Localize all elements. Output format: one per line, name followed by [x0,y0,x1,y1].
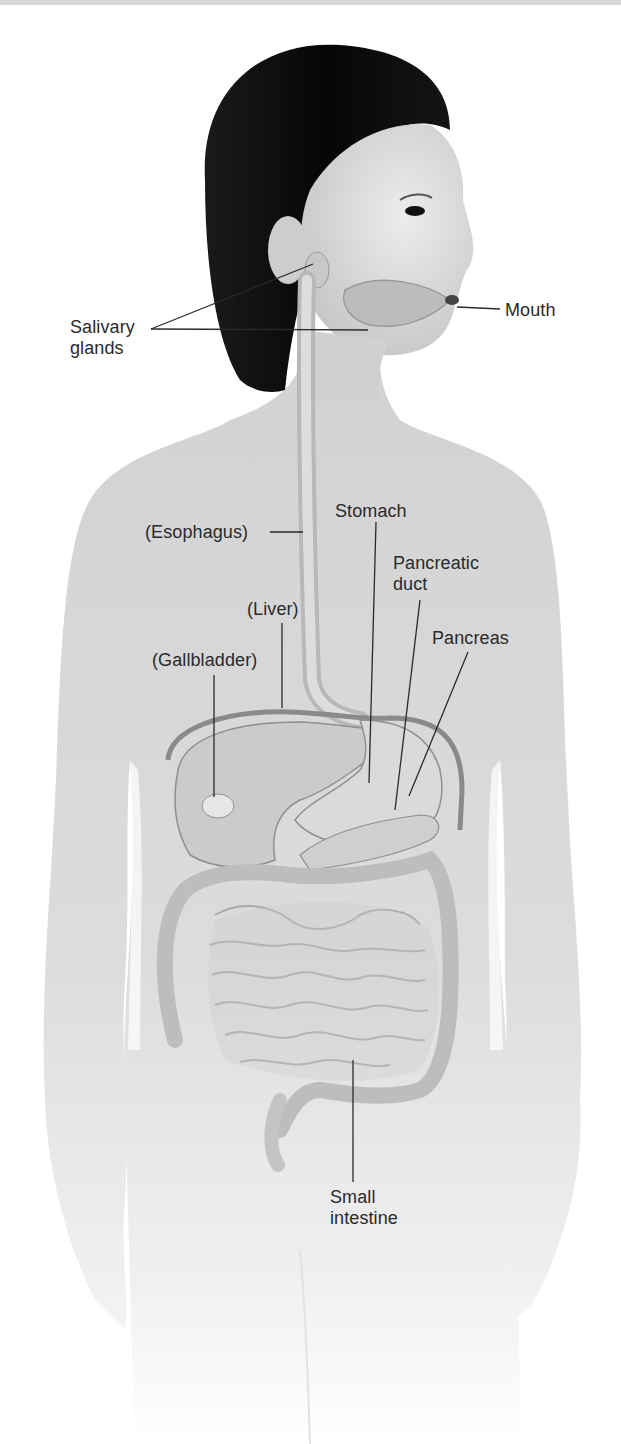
label-gallbladder: (Gallbladder) [152,650,257,671]
digestive-system-illustration [0,0,621,1444]
leader-mouth [457,307,500,309]
label-pancreatic-duct: Pancreatic duct [393,553,479,595]
label-liver: (Liver) [247,599,299,620]
label-pancreas: Pancreas [432,628,509,649]
gallbladder [202,794,234,818]
label-stomach: Stomach [335,501,407,522]
label-salivary-glands: Salivary glands [70,317,135,359]
label-mouth: Mouth [505,300,556,321]
label-esophagus: (Esophagus) [145,522,248,543]
eye [405,206,425,216]
label-small-intestine: Small intestine [330,1187,398,1229]
